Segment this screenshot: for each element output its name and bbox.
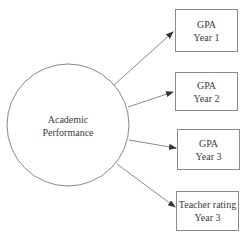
indicator-line1: Teacher rating <box>179 198 236 211</box>
indicator-gpa-year-2: GPA Year 2 <box>175 72 238 111</box>
arrow-to-teacher-rating <box>117 164 175 207</box>
indicator-gpa-year-3: GPA Year 3 <box>177 129 240 170</box>
latent-label: Academic Performance <box>18 113 118 139</box>
indicator-line2: Year 1 <box>194 31 220 44</box>
latent-label-line2: Performance <box>18 126 118 139</box>
arrow-to-gpa-year-2 <box>128 92 173 107</box>
indicator-line2: Year 3 <box>196 150 222 163</box>
arrow-to-gpa-year-3 <box>129 140 176 148</box>
indicator-line1: GPA <box>199 137 218 150</box>
indicator-gpa-year-1: GPA Year 1 <box>175 9 238 52</box>
latent-label-line1: Academic <box>18 113 118 126</box>
indicator-line1: GPA <box>197 18 216 31</box>
indicator-line1: GPA <box>197 79 216 92</box>
arrow-to-gpa-year-1 <box>114 32 173 85</box>
indicator-line2: Year 2 <box>194 92 220 105</box>
indicator-teacher-rating-year-3: Teacher rating Year 3 <box>176 191 239 231</box>
indicator-line2: Year 3 <box>195 211 221 224</box>
